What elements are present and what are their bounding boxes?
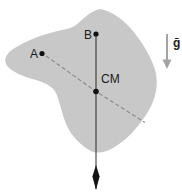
free-body-diagram: A B CM ḡ [0,0,182,196]
point-a-label: A [30,47,38,61]
diagram-canvas: A B CM ḡ [0,0,182,196]
cm-dot [93,89,99,95]
plumb-bob-arrowhead-icon [92,165,99,190]
point-a-dot [39,51,44,56]
point-b-label: B [84,28,92,42]
gravity-label: ḡ [173,36,180,50]
cm-label: CM [101,72,120,86]
point-b-dot [93,31,98,36]
gravity-arrow-icon [163,34,172,69]
